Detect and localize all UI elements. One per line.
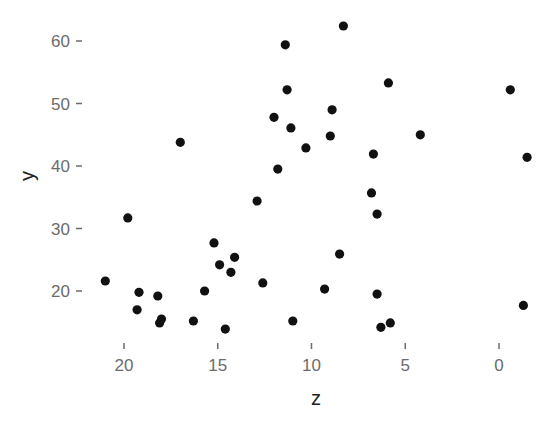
x-tick: 15 — [208, 343, 227, 375]
x-tick: 20 — [115, 343, 134, 375]
data-point — [200, 286, 209, 295]
y-tick: 40 — [51, 157, 82, 176]
y-axis: 2030405060 — [51, 32, 82, 301]
data-point — [226, 268, 235, 277]
data-point — [416, 130, 425, 139]
y-tick-label: 40 — [51, 157, 70, 176]
scatter-chart: 2030405060 20151050 z y — [0, 0, 552, 425]
y-tick-label: 60 — [51, 32, 70, 51]
y-tick: 20 — [51, 282, 82, 301]
data-point — [134, 288, 143, 297]
data-point — [519, 301, 528, 310]
y-axis-title: y — [16, 171, 38, 181]
y-tick: 50 — [51, 95, 82, 114]
data-point — [376, 323, 385, 332]
x-tick: 0 — [494, 343, 503, 375]
y-tick: 60 — [51, 32, 82, 51]
y-tick-label: 20 — [51, 282, 70, 301]
data-point — [189, 316, 198, 325]
data-point — [253, 196, 262, 205]
data-point — [209, 238, 218, 247]
data-point — [384, 78, 393, 87]
data-point — [269, 113, 278, 122]
data-point — [286, 123, 295, 132]
data-point — [320, 285, 329, 294]
data-point — [153, 291, 162, 300]
data-point — [523, 153, 532, 162]
y-tick: 30 — [51, 220, 82, 239]
y-tick-label: 30 — [51, 220, 70, 239]
x-axis: 20151050 — [115, 343, 504, 375]
data-point — [281, 40, 290, 49]
x-tick-label: 10 — [302, 356, 321, 375]
data-point — [301, 143, 310, 152]
data-point — [133, 305, 142, 314]
data-point — [273, 165, 282, 174]
data-point — [328, 105, 337, 114]
data-point — [326, 131, 335, 140]
data-point — [373, 210, 382, 219]
x-tick-label: 15 — [208, 356, 227, 375]
data-point — [155, 318, 164, 327]
data-point — [506, 85, 515, 94]
data-point — [335, 250, 344, 259]
x-tick: 5 — [401, 343, 410, 375]
data-point — [215, 260, 224, 269]
data-point — [176, 138, 185, 147]
data-point — [339, 21, 348, 30]
data-point — [283, 85, 292, 94]
y-tick-label: 50 — [51, 95, 70, 114]
data-point — [386, 318, 395, 327]
data-point — [123, 213, 132, 222]
x-tick-label: 20 — [115, 356, 134, 375]
data-point — [230, 253, 239, 262]
x-tick-label: 0 — [494, 356, 503, 375]
data-points — [101, 21, 532, 333]
data-point — [258, 278, 267, 287]
x-tick-label: 5 — [401, 356, 410, 375]
data-point — [288, 316, 297, 325]
data-point — [367, 188, 376, 197]
data-point — [101, 276, 110, 285]
data-point — [369, 150, 378, 159]
x-tick: 10 — [302, 343, 321, 375]
data-point — [373, 290, 382, 299]
x-axis-title: z — [311, 387, 321, 409]
data-point — [221, 325, 230, 334]
